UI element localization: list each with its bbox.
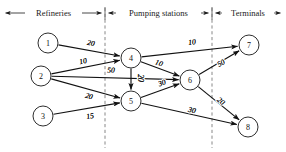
- edge-label-1-4: 20: [87, 38, 96, 48]
- node-label-7: 7: [247, 41, 251, 50]
- node-4[interactable]: 4: [121, 48, 141, 68]
- edge-label-4-5: 20: [136, 74, 145, 82]
- network-diagram: RefineriesPumping stationsTerminals 2020…: [0, 0, 286, 152]
- node-label-1: 1: [46, 39, 50, 48]
- node-label-8: 8: [246, 123, 250, 132]
- edge-label-2-5: 20: [84, 91, 94, 102]
- node-8[interactable]: 8: [238, 117, 258, 137]
- node-1[interactable]: 1: [38, 33, 58, 53]
- node-6[interactable]: 6: [180, 70, 200, 90]
- node-3[interactable]: 3: [33, 106, 53, 126]
- edge-label-3-5: 15: [86, 111, 95, 121]
- node-label-2: 2: [39, 72, 43, 81]
- edge-label-4-7: 10: [188, 37, 197, 47]
- node-5[interactable]: 5: [121, 91, 141, 111]
- edge-label-2-4: 10: [78, 56, 87, 66]
- node-label-5: 5: [129, 97, 133, 106]
- zone-label-refineries: Refineries: [36, 8, 71, 18]
- edge-label-2-6: 50: [107, 65, 115, 74]
- edge-label-5-8: 30: [186, 105, 196, 116]
- node-label-3: 3: [41, 112, 45, 121]
- edge-4-to-7: [142, 46, 238, 57]
- zone-header-band: RefineriesPumping stationsTerminals: [6, 7, 281, 20]
- node-label-6: 6: [188, 76, 192, 85]
- node-2[interactable]: 2: [31, 66, 51, 86]
- diagram-canvas: RefineriesPumping stationsTerminals 2020…: [0, 0, 286, 152]
- edge-label-6-8: 20: [215, 95, 227, 107]
- node-label-4: 4: [129, 54, 133, 63]
- zone-label-terminals: Terminals: [231, 8, 265, 18]
- zone-label-pumping_stations: Pumping stations: [129, 8, 188, 18]
- node-7[interactable]: 7: [239, 35, 259, 55]
